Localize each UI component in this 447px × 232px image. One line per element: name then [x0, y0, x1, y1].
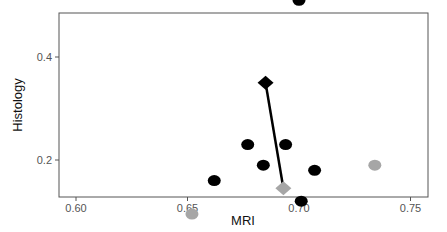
data-points — [141, 0, 381, 220]
point-marker — [368, 160, 381, 171]
diamond-marker — [258, 76, 274, 90]
x-tick-label: 0.75 — [400, 202, 421, 214]
diamond-marker — [275, 181, 291, 195]
scatter-chart: 0.600.650.700.75 0.20.40.6 MRI Histology — [0, 0, 447, 232]
point-marker — [241, 139, 254, 150]
y-tick-label: 0.4 — [37, 51, 52, 63]
point-marker — [293, 0, 306, 6]
point-marker — [308, 165, 321, 176]
x-tick-label: 0.60 — [65, 202, 86, 214]
y-axis: 0.20.40.6 — [37, 0, 59, 166]
connector-line — [266, 83, 284, 189]
point-marker — [295, 196, 308, 207]
point-marker — [208, 175, 221, 186]
point-marker — [257, 160, 270, 171]
y-tick-label: 0.2 — [37, 154, 52, 166]
point-marker — [185, 209, 198, 220]
y-axis-title: Histology — [10, 78, 25, 132]
point-marker — [279, 139, 292, 150]
x-axis-title: MRI — [231, 213, 255, 228]
annotations — [266, 83, 284, 189]
x-axis: 0.600.650.700.75 — [65, 197, 421, 214]
